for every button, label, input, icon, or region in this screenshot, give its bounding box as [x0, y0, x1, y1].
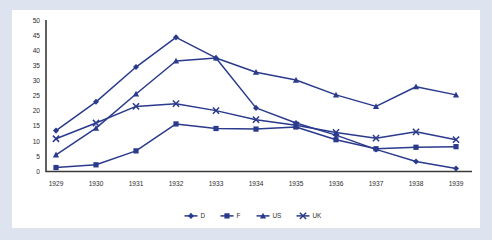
series-d: [53, 34, 459, 171]
y-tick-label: 10: [33, 138, 41, 145]
data-point-marker: [133, 148, 138, 153]
x-axis-tick-labels: 1929193019311932193319341935193619371938…: [49, 180, 464, 187]
data-point-marker: [93, 162, 98, 167]
x-tick-label: 1931: [129, 180, 144, 187]
y-axis-tick-labels: 05101520253035404550: [33, 16, 41, 174]
chart-legend: DFUSUK: [185, 212, 323, 219]
legend-item-f[interactable]: F: [221, 212, 241, 219]
x-tick-label: 1933: [209, 180, 224, 187]
chart-axes: [46, 20, 472, 171]
y-tick-label: 45: [33, 32, 41, 39]
x-tick-label: 1932: [169, 180, 184, 187]
y-tick-label: 0: [36, 168, 40, 175]
y-tick-label: 30: [33, 77, 41, 84]
y-tick-label: 15: [33, 122, 41, 129]
data-point-marker: [453, 165, 459, 171]
legend-label: US: [273, 212, 282, 219]
legend-label: UK: [313, 212, 323, 219]
x-tick-label: 1938: [409, 180, 424, 187]
data-point-marker: [53, 165, 58, 170]
x-tick-label: 1937: [369, 180, 384, 187]
x-tick-label: 1936: [329, 180, 344, 187]
y-tick-label: 20: [33, 107, 41, 114]
data-point-marker: [188, 213, 194, 219]
series-line-d: [56, 37, 456, 168]
y-tick-label: 25: [33, 92, 41, 99]
legend-label: D: [201, 212, 206, 219]
data-point-marker: [373, 146, 378, 151]
figure-frame: 05101520253035404550 1929193019311932193…: [0, 0, 492, 240]
y-tick-label: 40: [33, 47, 41, 54]
data-point-marker: [53, 136, 59, 142]
data-point-marker: [413, 145, 418, 150]
x-tick-label: 1939: [449, 180, 464, 187]
data-point-marker: [213, 126, 218, 131]
legend-label: F: [237, 212, 241, 219]
chart-canvas: 05101520253035404550 1929193019311932193…: [12, 10, 480, 228]
legend-item-d[interactable]: D: [185, 212, 206, 219]
data-point-marker: [413, 158, 419, 164]
data-point-marker: [453, 144, 458, 149]
y-tick-label: 50: [33, 16, 41, 23]
series-f: [53, 121, 458, 170]
x-tick-label: 1934: [249, 180, 264, 187]
data-series-group: [53, 34, 459, 171]
x-tick-label: 1929: [49, 180, 64, 187]
data-point-marker: [224, 213, 229, 218]
data-point-marker: [253, 126, 258, 131]
x-tick-label: 1930: [89, 180, 104, 187]
legend-item-us[interactable]: US: [257, 212, 282, 219]
axis-lines: [46, 20, 472, 171]
legend-item-uk[interactable]: UK: [297, 212, 323, 219]
y-tick-label: 5: [36, 153, 40, 160]
line-chart: 05101520253035404550 1929193019311932193…: [12, 10, 480, 228]
y-tick-label: 35: [33, 62, 41, 69]
data-point-marker: [333, 137, 338, 142]
data-point-marker: [173, 121, 178, 126]
x-tick-label: 1935: [289, 180, 304, 187]
